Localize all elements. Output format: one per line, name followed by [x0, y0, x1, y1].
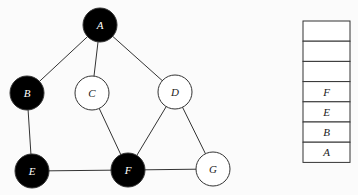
graph-nodes: ABCDEFG: [10, 8, 230, 188]
node-d: D: [158, 75, 192, 109]
node-label: E: [28, 165, 36, 177]
node-g: G: [196, 152, 230, 186]
node-f: F: [111, 153, 145, 187]
stack-cell: [303, 41, 350, 61]
stack-cell: [303, 61, 350, 81]
stack-cell-label: F: [322, 86, 330, 98]
node-label: D: [170, 86, 179, 98]
stack-cell-label: E: [322, 106, 330, 118]
node-label: G: [209, 163, 217, 175]
node-a: A: [83, 8, 117, 42]
stack-cell-label: A: [322, 146, 330, 158]
diagram-canvas: ABCDEFG FEBA: [0, 0, 358, 195]
node-label: C: [88, 87, 96, 99]
node-label: F: [124, 164, 132, 176]
stack-cell-label: B: [323, 126, 330, 138]
node-b: B: [10, 76, 44, 110]
node-label: A: [96, 19, 104, 31]
node-c: C: [75, 76, 109, 110]
stack-cell: [303, 21, 350, 41]
node-label: B: [24, 87, 31, 99]
node-e: E: [15, 154, 49, 188]
stack: FEBA: [303, 21, 350, 162]
